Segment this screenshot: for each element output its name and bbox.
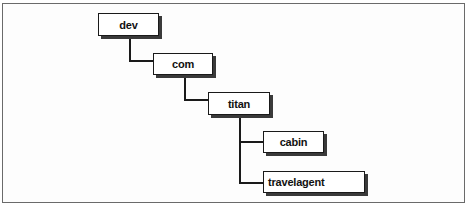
package-node-cabin: cabin (263, 131, 324, 153)
node-label: cabin (280, 136, 308, 148)
connector-dev-com-horizontal (129, 60, 154, 62)
connector-titan-cabin-horizontal (239, 141, 264, 143)
node-label: titan (228, 98, 250, 110)
connector-titan-travelagent-horizontal (239, 182, 264, 184)
package-node-com: com (153, 53, 213, 75)
node-label: dev (119, 19, 137, 31)
node-label: com (172, 58, 194, 70)
connector-com-titan-horizontal (184, 99, 209, 101)
package-node-travelagent: travelagent (263, 171, 365, 193)
connector-dev-com-vertical (129, 36, 131, 61)
connector-titan-children-vertical (239, 115, 241, 183)
connector-com-titan-vertical (184, 75, 186, 100)
package-node-dev: dev (98, 13, 159, 36)
node-label: travelagent (268, 176, 325, 188)
package-node-titan: titan (208, 92, 270, 115)
